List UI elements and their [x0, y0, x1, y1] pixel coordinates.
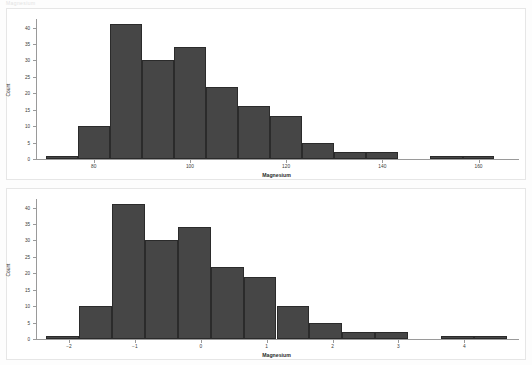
- histogram-bar: [244, 277, 277, 339]
- histogram-bar: [142, 60, 174, 159]
- x-axis-tick-label: 120: [282, 164, 290, 169]
- histogram-bar: [206, 87, 238, 159]
- y-axis-line: [36, 199, 37, 339]
- histogram-bar: [174, 47, 206, 159]
- x-axis-tick: [333, 340, 334, 343]
- histogram-bar: [178, 227, 211, 339]
- y-axis-tick-label: 20: [14, 91, 30, 96]
- x-axis-tick: [464, 340, 465, 343]
- y-axis-tick: [33, 323, 36, 324]
- x-axis-line: [36, 339, 519, 340]
- y-axis-tick: [33, 44, 36, 45]
- x-axis-tick: [479, 160, 480, 163]
- histogram-bar: [238, 106, 270, 159]
- y-axis-tick-label: 0: [14, 337, 30, 342]
- y-axis-tick-label: 5: [14, 140, 30, 145]
- y-axis-tick: [33, 77, 36, 78]
- y-axis-tick: [33, 306, 36, 307]
- x-axis-tick: [286, 160, 287, 163]
- x-axis-tick-label: 160: [475, 164, 483, 169]
- y-axis-label: Count: [6, 264, 11, 277]
- y-axis-tick-label: 10: [14, 124, 30, 129]
- y-axis-tick-label: 20: [14, 271, 30, 276]
- y-axis-tick: [33, 290, 36, 291]
- y-axis-tick-label: 40: [14, 205, 30, 210]
- histogram-bar: [145, 240, 178, 339]
- y-axis-tick: [33, 143, 36, 144]
- y-axis-tick-label: 10: [14, 304, 30, 309]
- y-axis-tick-label: 5: [14, 320, 30, 325]
- x-axis-tick-label: 0: [199, 344, 202, 349]
- y-axis-tick-label: 25: [14, 74, 30, 79]
- y-axis-line: [36, 19, 37, 159]
- y-axis-tick-label: 15: [14, 107, 30, 112]
- histogram-plot-raw: 051015202530354080100120140160MagnesiumC…: [7, 9, 525, 179]
- y-axis-tick-label: 30: [14, 58, 30, 63]
- histogram-bar: [366, 152, 398, 159]
- y-axis-tick: [33, 273, 36, 274]
- histogram-bar: [342, 332, 375, 339]
- y-axis-tick: [33, 28, 36, 29]
- x-axis-tick: [201, 340, 202, 343]
- y-axis-tick: [33, 208, 36, 209]
- histogram-bar: [112, 204, 145, 339]
- x-axis-label: Magnesium: [262, 172, 291, 178]
- x-axis-tick-label: 80: [91, 164, 96, 169]
- histogram-bar: [302, 143, 334, 159]
- histogram-bar: [110, 24, 142, 159]
- x-axis-tick: [135, 340, 136, 343]
- y-axis-tick: [33, 110, 36, 111]
- y-axis-tick-label: 15: [14, 287, 30, 292]
- y-axis-tick-label: 0: [14, 157, 30, 162]
- x-axis-tick: [382, 160, 383, 163]
- page-root: Magnesium 051015202530354080100120140160…: [0, 0, 532, 365]
- x-axis-tick-label: 3: [397, 344, 400, 349]
- chart-panel-standardized: 0510152025303540−2−101234MagnesiumCount: [6, 188, 526, 360]
- chart-panel-raw: 051015202530354080100120140160MagnesiumC…: [6, 8, 526, 180]
- histogram-bar: [375, 332, 408, 339]
- y-axis-tick: [33, 257, 36, 258]
- x-axis-tick: [267, 340, 268, 343]
- histogram-plot-standardized: 0510152025303540−2−101234MagnesiumCount: [7, 189, 525, 359]
- histogram-bar: [211, 267, 244, 339]
- x-axis-tick-label: 4: [463, 344, 466, 349]
- histogram-bar: [270, 116, 302, 159]
- document-faint-header: Magnesium: [6, 0, 35, 6]
- y-axis-tick: [33, 339, 36, 340]
- y-axis-tick: [33, 224, 36, 225]
- y-axis-tick: [33, 93, 36, 94]
- y-axis-tick-label: 35: [14, 42, 30, 47]
- y-axis-label: Count: [6, 84, 11, 97]
- x-axis-tick: [190, 160, 191, 163]
- histogram-bar: [277, 306, 310, 339]
- x-axis-tick-label: −1: [132, 344, 137, 349]
- y-axis-tick: [33, 240, 36, 241]
- x-axis-tick: [69, 340, 70, 343]
- y-axis-tick: [33, 60, 36, 61]
- y-axis-tick-label: 30: [14, 238, 30, 243]
- x-axis-tick-label: 1: [265, 344, 268, 349]
- x-axis-tick-label: 100: [186, 164, 194, 169]
- x-axis-tick: [398, 340, 399, 343]
- y-axis-tick: [33, 126, 36, 127]
- y-axis-tick-label: 40: [14, 25, 30, 30]
- y-axis-tick-label: 25: [14, 254, 30, 259]
- x-axis-tick-label: 140: [378, 164, 386, 169]
- x-axis-tick: [94, 160, 95, 163]
- x-axis-tick-label: −2: [66, 344, 71, 349]
- histogram-bar: [334, 152, 366, 159]
- histogram-bar: [78, 126, 110, 159]
- histogram-bar: [309, 323, 342, 339]
- x-axis-label: Magnesium: [262, 352, 291, 358]
- y-axis-tick-label: 35: [14, 222, 30, 227]
- x-axis-line: [36, 159, 519, 160]
- x-axis-tick-label: 2: [331, 344, 334, 349]
- y-axis-tick: [33, 159, 36, 160]
- histogram-bar: [79, 306, 112, 339]
